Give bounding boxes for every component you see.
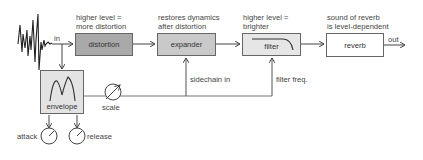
output-label: out	[388, 35, 399, 44]
envelope-label: envelope	[47, 102, 78, 111]
filter-note-2: brighter	[243, 22, 269, 31]
filter-block[interactable]: filter	[242, 33, 301, 56]
input-label: in	[54, 34, 60, 43]
reverb-note-2: is level-dependent	[327, 22, 389, 31]
scale-label: scale	[102, 103, 120, 112]
distortion-block[interactable]: distortion	[75, 33, 133, 56]
envelope-block[interactable]: envelope	[40, 70, 84, 114]
attack-knob-icon[interactable]	[41, 115, 57, 144]
release-knob-icon[interactable]	[69, 115, 85, 144]
scale-knob-icon[interactable]	[105, 84, 121, 100]
filter-note: higher level =	[243, 13, 288, 22]
input-waveform-icon	[18, 14, 52, 70]
reverb-note: sound of reverb	[327, 13, 380, 22]
release-label: release	[87, 132, 112, 141]
expander-block[interactable]: expander	[157, 33, 216, 56]
attack-label: attack	[17, 132, 37, 141]
filter-label: filter	[264, 42, 278, 51]
sidechain-label: sidechain in	[190, 75, 230, 84]
expander-note: restores dynamics	[158, 13, 220, 22]
reverb-block[interactable]: reverb	[326, 33, 384, 57]
expander-note-2: after distortion	[158, 22, 206, 31]
distortion-note-2: more distortion	[76, 22, 126, 31]
filter-freq-label: filter freq.	[276, 75, 308, 84]
distortion-note: higher level =	[76, 13, 121, 22]
